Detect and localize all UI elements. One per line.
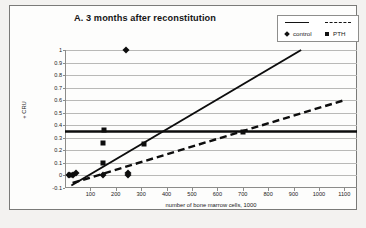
x-tick-label: 400 [162, 191, 171, 197]
data-point-PTH [141, 142, 146, 147]
y-tick-label: 0 [59, 172, 62, 178]
legend-line-pth [325, 22, 351, 23]
x-tick-label: 300 [137, 191, 146, 197]
fit-line-PTH [73, 100, 345, 183]
legend-marker-control-diamond-icon [284, 31, 290, 37]
y-tick-label: 0.5 [54, 110, 62, 116]
fit-line-control [71, 50, 301, 185]
data-point-PTH [68, 173, 73, 178]
x-axis-label: number of bone marrow cells, 1000 [65, 202, 357, 208]
plot-area: -0.100.10.20.30.40.50.60.70.80.91 100200… [65, 50, 357, 188]
y-tick-label: 0.6 [54, 97, 62, 103]
x-tick-label: 600 [213, 191, 222, 197]
y-tick-label: 0.8 [54, 72, 62, 78]
y-tick-mark [63, 188, 66, 189]
x-tick-label: 900 [289, 191, 298, 197]
data-point-PTH [102, 128, 107, 133]
x-tick-label: 800 [263, 191, 272, 197]
y-tick-label: 0.9 [54, 60, 62, 66]
y-tick-label: 0.4 [54, 122, 62, 128]
y-tick-label: 0.7 [54, 85, 62, 91]
legend-line-control [285, 22, 309, 23]
y-tick-label: 0.3 [54, 135, 62, 141]
x-tick-label: 500 [187, 191, 196, 197]
plot-inner: -0.100.10.20.30.40.50.60.70.80.91 100200… [65, 50, 357, 188]
x-tick-label: 200 [111, 191, 120, 197]
series-lines [65, 50, 357, 188]
x-tick-label: 1100 [338, 191, 350, 197]
legend-marker-pth-square-icon [325, 32, 329, 36]
legend-label-control: control [293, 30, 312, 37]
page-background: A. 3 months after reconstitution control… [0, 0, 366, 228]
chart-frame: A. 3 months after reconstitution control… [9, 5, 357, 210]
x-tick-label: 100 [86, 191, 95, 197]
data-point-PTH [101, 160, 106, 165]
y-tick-label: -0.1 [52, 185, 62, 191]
data-point-PTH [240, 129, 245, 134]
chart-legend: control PTH [277, 15, 359, 42]
y-axis-label: + CRU [21, 101, 27, 119]
x-tick-label: 700 [238, 191, 247, 197]
legend-label-pth: PTH [333, 30, 345, 37]
y-tick-label: 0.2 [54, 147, 62, 153]
data-point-PTH [101, 140, 106, 145]
x-tick-label: 1000 [313, 191, 325, 197]
y-tick-label: 1 [59, 47, 62, 53]
y-tick-label: 0.1 [54, 160, 62, 166]
